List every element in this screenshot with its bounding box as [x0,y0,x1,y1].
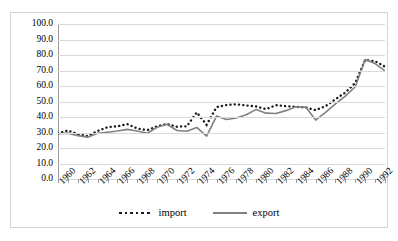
gridline [58,40,385,41]
y-axis-tick-label: 70.0 [36,66,53,76]
y-axis-tick-label: 50.0 [36,97,53,107]
y-axis-labels: 100.090.080.070.060.050.040.030.020.010.… [11,13,57,190]
y-axis-tick-label: 80.0 [36,50,53,60]
plot-area [58,24,385,179]
gridline [58,164,385,165]
y-axis-tick-label: 60.0 [36,81,53,91]
gridline [58,55,385,56]
gridline [58,148,385,149]
y-axis-tick-label: 10.0 [36,159,53,169]
legend-item-import[interactable]: import [119,207,187,218]
y-axis-tick-label: 90.0 [36,35,53,45]
chart-legend: import export [11,207,387,218]
legend-label-import: import [159,207,187,218]
chart-container: 100.090.080.070.060.050.040.030.020.010.… [10,12,388,228]
gridline [58,71,385,72]
gridline [58,133,385,134]
gridline [58,24,385,25]
legend-label-export: export [253,207,280,218]
y-axis-tick-label: 100.0 [32,19,53,29]
y-axis-tick-label: 40.0 [36,112,53,122]
gridline [58,86,385,87]
dotted-line-icon [119,209,153,217]
gridline [58,102,385,103]
solid-line-icon [213,209,247,217]
y-axis-tick-label: 20.0 [36,143,53,153]
legend-item-export[interactable]: export [213,207,280,218]
gridline [58,117,385,118]
y-axis-tick-label: 0.0 [41,174,53,184]
y-axis-tick-label: 30.0 [36,128,53,138]
